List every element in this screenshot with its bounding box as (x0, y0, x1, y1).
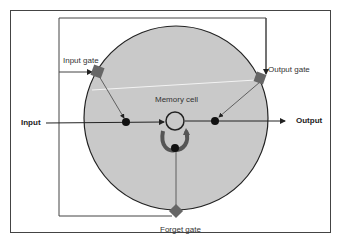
input-label: Input (21, 119, 41, 127)
memory-cell-label: Memory cell (155, 96, 198, 104)
output-multiplier (211, 117, 219, 125)
forget-multiplier (171, 144, 179, 152)
input-gate-label: Input gate (63, 57, 99, 65)
output-gate-label: Output gate (268, 66, 310, 74)
forget-gate-label: Forget gate (160, 226, 201, 234)
memory-cell (166, 112, 184, 130)
lstm-diagram (0, 0, 340, 249)
output-label: Output (296, 117, 322, 125)
input-multiplier (122, 118, 130, 126)
